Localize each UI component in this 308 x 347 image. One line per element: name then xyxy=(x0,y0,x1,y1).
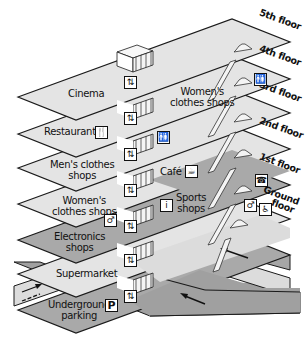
restaurant-icon: 🍴 xyxy=(95,126,108,139)
toilet-icon: ♂ xyxy=(104,214,117,227)
area-underground-parking: Underground parking xyxy=(48,299,110,321)
information-icon: i xyxy=(160,199,173,212)
area-womens-clothes-top: Women's clothes shops xyxy=(170,86,235,108)
cafe-icon: ☕ xyxy=(185,165,198,178)
lift-icon: ⇅ xyxy=(124,220,137,233)
lift-icon: ⇅ xyxy=(124,184,137,197)
area-parking-line2: parking xyxy=(48,310,110,321)
toilet-icon: ♂ xyxy=(244,199,257,212)
area-parking-line1: Underground xyxy=(48,299,110,310)
lift-icon: ⇅ xyxy=(124,254,137,267)
lift-icon: ⇅ xyxy=(124,148,137,161)
area-mens-line2: shops xyxy=(50,170,114,181)
area-cafe: Café xyxy=(160,166,182,177)
area-sports-line2: shops xyxy=(176,203,206,214)
area-mens-line1: Men's clothes xyxy=(50,159,114,170)
toilets-icon: 🚻 xyxy=(254,73,267,86)
lift-icon: ⇅ xyxy=(124,112,137,125)
toilets-icon: 🚻 xyxy=(157,131,170,144)
area-mens-clothes: Men's clothes shops xyxy=(50,159,114,181)
area-womens-line1: Women's xyxy=(170,86,235,97)
lift-icon: ⇅ xyxy=(124,76,137,89)
disabled-access-icon: ♿ xyxy=(259,203,272,216)
lift-icon: ⇅ xyxy=(124,290,137,303)
area-womens-line2: clothes shops xyxy=(170,97,235,108)
area-cinema: Cinema xyxy=(68,88,104,99)
area-sports-shops: Sports shops xyxy=(176,192,206,214)
area-sports-line1: Sports xyxy=(176,192,206,203)
area-electronics-shops: Electronics shops xyxy=(54,231,105,253)
area-electronics-line1: Electronics xyxy=(54,231,105,242)
telephone-icon: ☎ xyxy=(255,174,268,187)
area-restaurants: Restaurants xyxy=(44,126,101,137)
parking-icon: P xyxy=(105,299,118,312)
shopping-centre-diagram: 5th floor 4th floor 3rd floor 2nd floor … xyxy=(0,0,308,347)
area-electronics-line2: shops xyxy=(54,242,105,253)
area-womens2-line1: Women's xyxy=(52,195,117,206)
area-supermarket: Supermarket xyxy=(56,268,117,279)
